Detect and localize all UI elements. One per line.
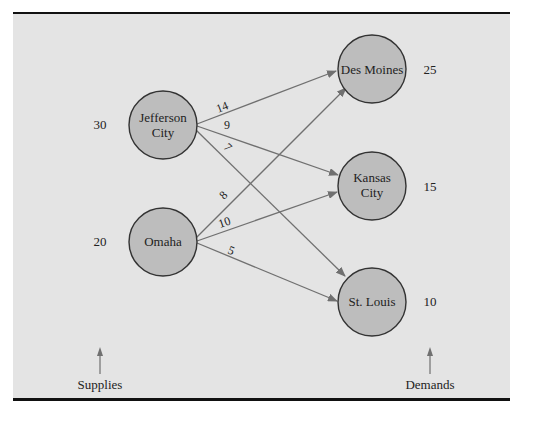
transportation-network-diagram: 14 9 7 8 10 5 Jefferson City Omaha Des M… <box>0 0 534 423</box>
node-label-line1: Kansas <box>353 170 391 185</box>
edge-jc-dm <box>197 71 336 124</box>
cost-jc-dm: 14 <box>214 98 230 115</box>
cost-jc-sl: 7 <box>221 140 235 154</box>
node-omaha: Omaha <box>129 208 197 276</box>
node-jefferson-city: Jefferson City <box>129 91 197 159</box>
demands-arrow-icon <box>427 347 433 374</box>
supplies-caption: Supplies <box>78 377 123 392</box>
edge-om-sl <box>197 243 337 301</box>
demand-st-louis: 10 <box>424 294 437 309</box>
cost-om-kc: 10 <box>216 214 232 231</box>
node-st-louis: St. Louis <box>338 268 406 336</box>
edge-jc-kc <box>197 126 338 175</box>
cost-jc-kc: 9 <box>224 118 230 132</box>
node-label-line2: City <box>361 185 384 200</box>
node-kansas-city: Kansas City <box>338 152 406 220</box>
cost-om-sl: 5 <box>226 243 237 258</box>
supply-omaha: 20 <box>94 234 107 249</box>
node-des-moines: Des Moines <box>338 35 406 103</box>
cost-om-dm: 8 <box>216 188 230 202</box>
supplies-arrow-icon <box>97 347 103 374</box>
node-label: St. Louis <box>349 294 396 309</box>
node-label-line2: City <box>152 125 175 140</box>
supply-jefferson-city: 30 <box>94 117 107 132</box>
demand-des-moines: 25 <box>424 62 437 77</box>
demands-caption: Demands <box>405 377 454 392</box>
node-label: Des Moines <box>341 62 403 77</box>
node-label-line1: Jefferson <box>139 110 187 125</box>
node-label: Omaha <box>144 234 182 249</box>
demand-kansas-city: 15 <box>424 179 437 194</box>
